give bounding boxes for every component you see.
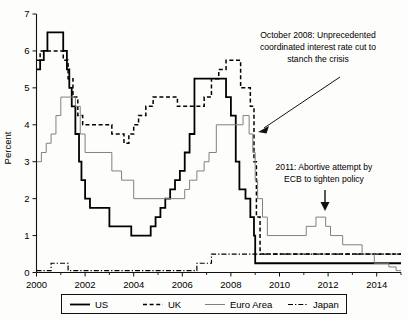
- y-tick-label-2: 2: [24, 193, 29, 204]
- legend-label-euro-area: Euro Area: [230, 299, 273, 310]
- y-tick-label-4: 4: [24, 119, 29, 130]
- legend-label-uk: UK: [168, 299, 182, 310]
- y-tick-label-7: 7: [24, 8, 29, 19]
- annotation-oct-2008-line-3: stanch the crisis: [287, 54, 349, 64]
- x-tick-label-2006: 2006: [172, 279, 193, 290]
- y-axis-label: Percent: [2, 131, 13, 164]
- annotation-oct-2008-line-1: October 2008: Unprecedented: [260, 30, 376, 40]
- annotation-2011-line-2: ECB to tighten policy: [284, 174, 364, 184]
- legend-label-japan: Japan: [313, 299, 339, 310]
- y-tick-label-0: 0: [24, 267, 29, 278]
- x-tick-label-2014: 2014: [366, 279, 387, 290]
- x-tick-label-2002: 2002: [75, 279, 96, 290]
- annotation-2011-line-1: 2011: Abortive attempt by: [276, 162, 374, 172]
- interest-rate-line-chart: 01234567 2000200220042006200820102012201…: [0, 0, 407, 321]
- x-tick-label-2008: 2008: [220, 279, 241, 290]
- x-tick-label-2012: 2012: [318, 279, 339, 290]
- x-tick-label-2004: 2004: [123, 279, 144, 290]
- annotation-oct-2008-line-2: coordinated interest rate cut to: [260, 42, 376, 52]
- x-tick-label-2010: 2010: [269, 279, 290, 290]
- chart-figure: 01234567 2000200220042006200820102012201…: [0, 0, 407, 321]
- legend-label-us: US: [95, 299, 108, 310]
- x-tick-label-2000: 2000: [26, 279, 47, 290]
- y-tick-label-3: 3: [24, 156, 29, 167]
- y-tick-label-5: 5: [24, 82, 29, 93]
- y-tick-label-6: 6: [24, 45, 29, 56]
- y-tick-label-1: 1: [24, 230, 29, 241]
